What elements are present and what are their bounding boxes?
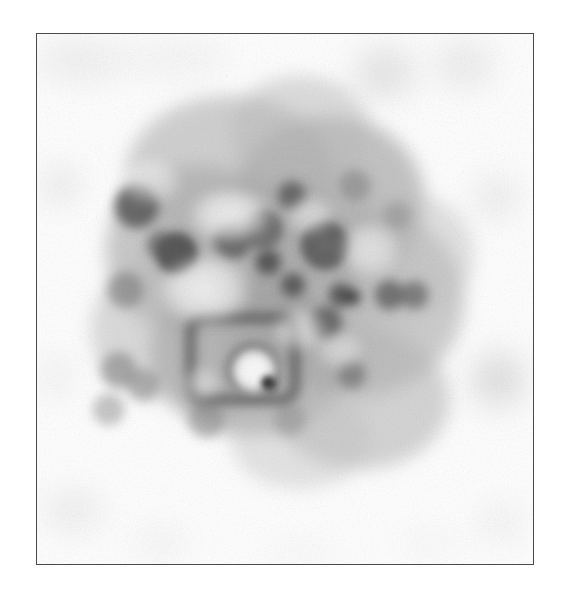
micrograph-figure-frame	[36, 33, 534, 565]
film-grain-overlay	[37, 34, 533, 564]
micrograph-canvas	[37, 34, 533, 564]
page-root	[0, 0, 563, 592]
